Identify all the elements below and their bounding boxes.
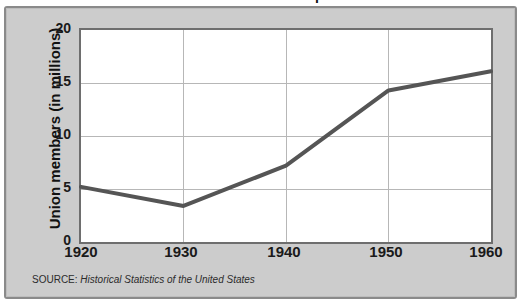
x-tick-1950: 1950: [356, 244, 416, 259]
y-axis-ticks: 20 15 10 5 0: [37, 28, 71, 240]
x-tick-1960: 1960: [456, 244, 516, 259]
chart-panel: Union members (in millions) 20 15 10 5 0…: [4, 6, 517, 299]
x-axis-ticks: 1920 1930 1940 1950 1960: [79, 244, 489, 264]
source-label: SOURCE:: [32, 274, 78, 285]
x-tick-1920: 1920: [51, 244, 111, 259]
source-title: Historical Statistics of the United Stat…: [80, 274, 255, 285]
y-tick-15: 15: [37, 74, 71, 88]
chart-title: Union Membership: [0, 0, 521, 3]
x-tick-1930: 1930: [151, 244, 211, 259]
x-tick-1940: 1940: [254, 244, 314, 259]
source-note: SOURCE: Historical Statistics of the Uni…: [32, 274, 255, 285]
y-tick-10: 10: [37, 127, 71, 141]
data-series-union-members: [81, 30, 491, 242]
y-tick-20: 20: [37, 21, 71, 35]
plot-area: [79, 28, 493, 244]
y-tick-5: 5: [37, 180, 71, 194]
chart-figure: Union Membership Union members (in milli…: [0, 0, 521, 304]
